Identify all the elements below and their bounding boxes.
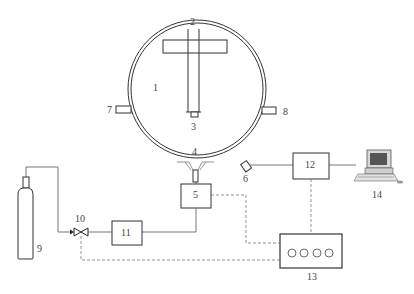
label-8: 8 <box>283 107 288 117</box>
spray-nozzle <box>177 162 214 182</box>
left-port <box>116 106 131 113</box>
computer-icon <box>354 150 403 184</box>
label-12: 12 <box>305 160 315 170</box>
label-10: 10 <box>75 214 85 224</box>
pressure-sensor-port <box>241 161 252 172</box>
probe-tip <box>191 112 198 117</box>
diagram-drawing <box>0 0 414 294</box>
label-9: 9 <box>37 244 42 254</box>
label-1: 1 <box>153 83 158 93</box>
label-2: 2 <box>190 17 195 27</box>
flow-arrow <box>70 230 74 235</box>
label-14: 14 <box>372 190 382 200</box>
label-6: 6 <box>243 174 248 184</box>
label-3: 3 <box>191 122 196 132</box>
label-4: 4 <box>192 147 197 157</box>
gas-cylinder <box>18 177 33 259</box>
label-7: 7 <box>107 105 112 115</box>
label-5: 5 <box>193 190 198 200</box>
label-11: 11 <box>121 228 131 238</box>
top-flange <box>163 40 227 53</box>
label-13: 13 <box>307 272 317 282</box>
valve <box>74 228 88 236</box>
right-port <box>262 107 276 114</box>
apparatus-diagram: 1 2 3 4 5 6 7 8 9 10 11 12 13 14 <box>0 0 414 294</box>
